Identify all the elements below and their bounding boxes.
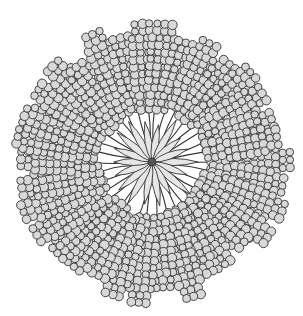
cell (286, 156, 293, 163)
cell (54, 57, 62, 65)
cell (221, 260, 228, 267)
cell (31, 104, 39, 112)
cell (14, 133, 22, 141)
illustration-canvas (0, 0, 303, 316)
cell (279, 164, 286, 171)
cell (277, 189, 285, 197)
cell (163, 42, 171, 50)
cell (279, 174, 288, 183)
cell (274, 214, 284, 224)
cell (183, 295, 191, 303)
cell (131, 28, 138, 35)
cell (212, 42, 221, 51)
radial-cluster-illustration (0, 0, 303, 316)
cell (20, 111, 29, 120)
cell (274, 198, 281, 205)
cell (53, 128, 60, 135)
cell (262, 96, 271, 105)
cell (205, 130, 212, 137)
cell (18, 183, 26, 191)
cell (150, 214, 157, 221)
cell (57, 206, 64, 213)
cell (96, 27, 103, 34)
cell (35, 193, 43, 201)
cell (205, 154, 212, 161)
cell (251, 111, 258, 118)
cell (78, 58, 87, 66)
cell (128, 35, 135, 42)
cell (241, 88, 248, 95)
cell (131, 21, 138, 28)
cell (121, 70, 129, 78)
cell (29, 225, 37, 233)
cell (22, 215, 31, 224)
cell (17, 155, 26, 164)
cell (234, 243, 243, 252)
cell (17, 177, 24, 184)
cell (88, 30, 96, 38)
cell (109, 36, 118, 45)
cell (168, 20, 177, 29)
cell (17, 201, 26, 210)
cell (19, 191, 28, 200)
cell (101, 288, 110, 297)
core-center (148, 158, 156, 166)
cell (68, 76, 75, 83)
cell (257, 125, 265, 133)
cell (37, 79, 46, 88)
cell (120, 63, 128, 71)
cell (49, 244, 57, 252)
cell (145, 20, 152, 27)
cell (259, 239, 268, 248)
cell (243, 128, 251, 136)
cell (286, 148, 294, 156)
cell (273, 133, 281, 141)
cell (274, 141, 282, 149)
cell (251, 74, 259, 82)
cell (23, 105, 30, 112)
cell (208, 65, 215, 72)
cell (127, 297, 136, 306)
cell (136, 292, 144, 300)
cell (27, 139, 35, 147)
cell (55, 145, 63, 153)
cell (150, 257, 159, 266)
cell (237, 170, 245, 178)
cell (174, 36, 183, 45)
cell (286, 163, 294, 171)
cell (154, 20, 161, 27)
cell (279, 149, 287, 157)
cell (147, 55, 154, 62)
cell (166, 283, 174, 291)
cell (206, 40, 213, 47)
cell (279, 156, 286, 163)
cell (15, 126, 22, 133)
cell (167, 276, 174, 283)
